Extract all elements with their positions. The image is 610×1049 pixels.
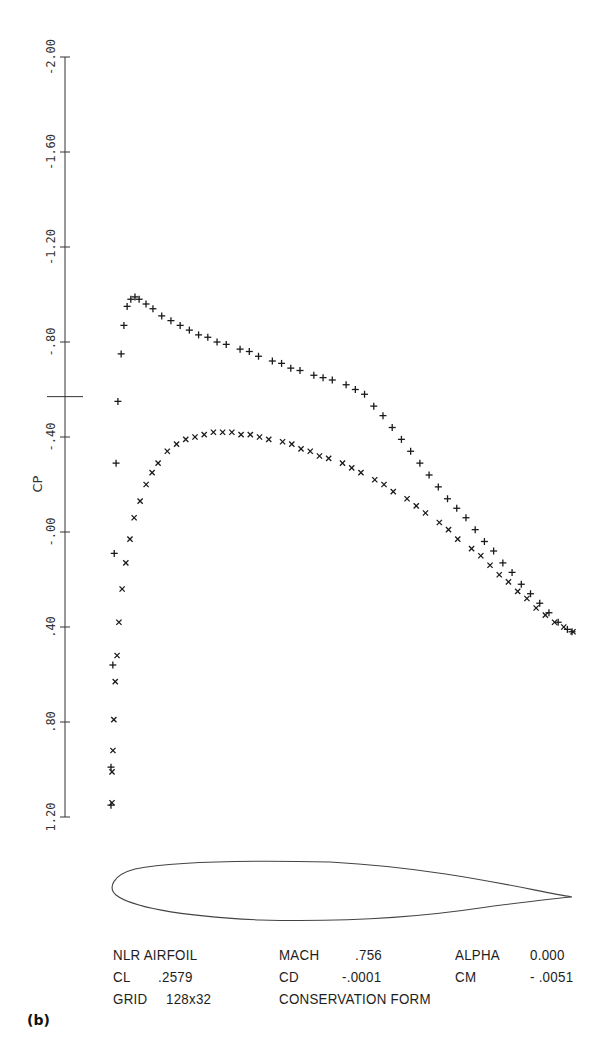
info-grid-label: GRID bbox=[113, 990, 147, 1008]
info-mach-label: MACH bbox=[279, 946, 319, 964]
axis-tick-label: -.40 bbox=[44, 423, 58, 452]
info-cm-label: CM bbox=[455, 968, 476, 986]
info-name: NLR AIRFOIL bbox=[113, 946, 197, 964]
axis-tick-label: .80 bbox=[44, 711, 58, 733]
info-cd-label: CD bbox=[279, 968, 299, 986]
axis-tick-label: -1.20 bbox=[44, 229, 58, 265]
axis-tick-label: -2.00 bbox=[44, 39, 58, 75]
upper-surface-series bbox=[108, 293, 576, 808]
axis-tick-label: 1.20 bbox=[44, 803, 58, 832]
lower-surface-series bbox=[109, 430, 575, 806]
info-alpha-label: ALPHA bbox=[455, 946, 500, 964]
cp-distribution-plot: -2.00-1.60-1.20-.80-.40-.00.40.801.20 CP bbox=[0, 0, 610, 940]
axis-tick-label: -.80 bbox=[44, 328, 58, 357]
info-cl-label: CL bbox=[113, 968, 131, 986]
y-axis-label: CP bbox=[30, 475, 45, 492]
axis-tick-label: .40 bbox=[44, 616, 58, 638]
axis-tick-label: -1.60 bbox=[44, 134, 58, 170]
info-form: CONSERVATION FORM bbox=[279, 990, 431, 1008]
info-cl-value: .2579 bbox=[158, 968, 193, 986]
cp-axis-tick-labels: -2.00-1.60-1.20-.80-.40-.00.40.801.20 bbox=[44, 39, 58, 832]
info-alpha-value: 0.000 bbox=[530, 946, 565, 964]
axis-tick-label: -.00 bbox=[44, 518, 58, 547]
airfoil-outline bbox=[112, 861, 572, 920]
info-cm-value: - .0051 bbox=[530, 968, 573, 986]
info-cd-value: -.0001 bbox=[342, 968, 381, 986]
panel-tag: (b) bbox=[27, 1012, 50, 1028]
info-grid-value: 128x32 bbox=[166, 990, 211, 1008]
info-mach-value: .756 bbox=[355, 946, 382, 964]
